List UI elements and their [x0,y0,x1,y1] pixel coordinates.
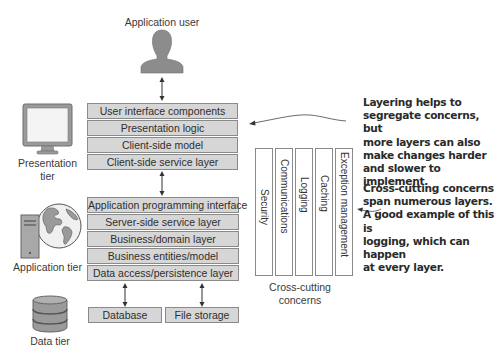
cross-cutting-annotation: Cross-cutting concerns span numerous lay… [363,182,495,274]
layer-client-side-model: Client-side model [87,137,238,153]
column-caching: Caching [315,148,333,276]
monitor-icon [22,103,73,155]
column-logging: Logging [295,148,313,276]
logging-label: Logging [298,177,310,213]
application-tier-label: Application tier [5,261,90,273]
person-silhouette-icon [140,29,184,74]
cross-cutting-concerns-label: Cross-cutting concerns [250,281,350,307]
arrow-user-presentation [158,77,166,101]
communications-label: Communications [278,159,290,233]
arrow-data-access-database [121,283,129,307]
database-cylinder-icon [32,295,68,333]
column-exception-management: Exception management [335,148,353,276]
layer-server-side-service: Server-side service layer [87,214,239,230]
arrow-data-access-file-storage [198,283,206,307]
layer-data-access: Data access/persistence layer [87,265,239,281]
layer-business-domain: Business/domain layer [87,231,239,247]
column-communications: Communications [275,148,293,276]
presentation-tier-label: Presentation tier [10,157,85,183]
exception-management-label: Exception management [338,152,350,257]
layer-presentation-logic: Presentation logic [87,120,238,136]
file-storage-box: File storage [165,307,239,323]
database-box: Database [88,307,162,323]
server-globe-icon [20,203,80,259]
layering-annotation: Layering helps to segregate concerns, bu… [363,96,495,188]
arrow-presentation-application [158,171,166,196]
layering-callout-arrow [240,110,350,130]
security-label: Security [258,189,270,225]
column-security: Security [255,148,273,276]
data-tier-label: Data tier [10,335,90,347]
layer-client-side-service: Client-side service layer [87,154,238,170]
layer-user-interface-components: User interface components [87,103,238,119]
application-user-label: Application user [112,16,212,28]
layer-business-entities: Business entities/model [87,248,239,264]
caching-label: Caching [318,175,330,212]
layer-api: Application programming interface [87,197,239,213]
